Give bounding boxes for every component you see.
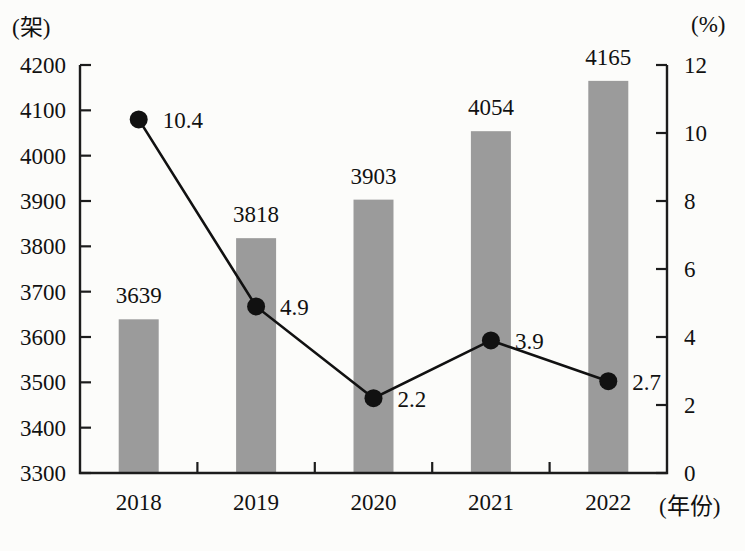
left-axis-unit-label: (架) (12, 8, 50, 42)
point-value-label: 2.2 (398, 387, 427, 412)
x-axis-category-label: 2018 (116, 490, 162, 515)
left-axis-tick-label: 3700 (20, 280, 66, 305)
line-marker-2022 (599, 372, 617, 390)
left-axis-tick-label: 4000 (20, 144, 66, 169)
bar-value-label: 3639 (116, 283, 162, 308)
combo-chart: (架) (%) (年份) 330034003500360037003800390… (0, 0, 745, 551)
line-marker-2019 (247, 297, 265, 315)
bar-2022 (588, 81, 628, 473)
right-axis-tick-label: 2 (684, 393, 696, 418)
left-axis-tick-label: 3800 (20, 234, 66, 259)
line-marker-2021 (482, 331, 500, 349)
chart-canvas: 3300340035003600370038003900400041004200… (0, 0, 745, 551)
x-axis-category-label: 2020 (351, 490, 397, 515)
left-axis-tick-label: 3600 (20, 325, 66, 350)
right-axis-tick-label: 4 (684, 325, 696, 350)
line-marker-2018 (130, 110, 148, 128)
bar-2019 (236, 238, 276, 473)
right-axis-tick-label: 6 (684, 257, 696, 282)
right-axis-tick-label: 10 (684, 121, 707, 146)
point-value-label: 4.9 (280, 295, 309, 320)
left-axis-tick-label: 3400 (20, 416, 66, 441)
left-axis-tick-label: 4200 (20, 53, 66, 78)
left-axis-tick-label: 3300 (20, 461, 66, 486)
bar-value-label: 4054 (468, 95, 515, 120)
bar-value-label: 3818 (233, 202, 279, 227)
left-axis-tick-label: 3900 (20, 189, 66, 214)
point-value-label: 10.4 (163, 108, 204, 133)
bar-value-label: 3903 (351, 164, 397, 189)
right-axis-tick-label: 12 (684, 53, 707, 78)
x-axis-category-label: 2019 (233, 490, 279, 515)
right-axis-tick-label: 0 (684, 461, 696, 486)
bar-2020 (354, 200, 394, 473)
point-value-label: 3.9 (515, 329, 544, 354)
right-axis-unit-label: (%) (691, 12, 725, 38)
bar-2018 (119, 319, 159, 473)
right-axis-tick-label: 8 (684, 189, 696, 214)
left-axis-tick-label: 3500 (20, 370, 66, 395)
x-axis-category-label: 2022 (585, 490, 631, 515)
bar-value-label: 4165 (585, 45, 631, 70)
x-axis-unit-label: (年份) (659, 487, 720, 521)
point-value-label: 2.7 (632, 370, 661, 395)
line-marker-2020 (365, 389, 383, 407)
x-axis-category-label: 2021 (468, 490, 514, 515)
left-axis-tick-label: 4100 (20, 98, 66, 123)
bar-2021 (471, 131, 511, 473)
